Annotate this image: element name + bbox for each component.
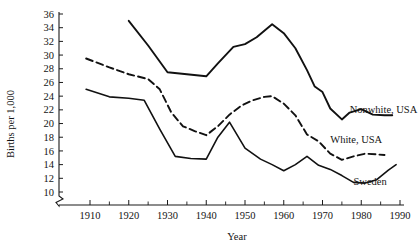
y-tick-label: 26 bbox=[44, 77, 55, 88]
x-axis-group: 191019201930194019501960197019801990 Yea… bbox=[59, 200, 411, 242]
x-axis-title: Year bbox=[227, 231, 247, 242]
data-series-labels: Nonwhite, USAWhite, USASweden bbox=[330, 104, 417, 188]
y-axis-title: Births per 1,000 bbox=[5, 90, 16, 158]
y-axis-group: 1012141618202224262830323436 Births per … bbox=[5, 9, 63, 206]
x-tick-label: 1920 bbox=[118, 210, 139, 221]
x-tick-label: 1980 bbox=[351, 210, 372, 221]
y-axis-tick-labels: 1012141618202224262830323436 bbox=[44, 9, 55, 198]
x-tick-label: 1960 bbox=[273, 210, 294, 221]
data-series-lines bbox=[86, 21, 396, 183]
y-axis-tick-marks bbox=[59, 14, 63, 192]
y-tick-label: 34 bbox=[44, 22, 55, 33]
chart-plot-area: 1012141618202224262830323436 Births per … bbox=[0, 0, 420, 246]
y-tick-label: 24 bbox=[44, 91, 55, 102]
y-tick-label: 20 bbox=[44, 118, 55, 129]
x-tick-label: 1910 bbox=[80, 210, 101, 221]
x-tick-label: 1970 bbox=[312, 210, 333, 221]
y-tick-label: 32 bbox=[44, 36, 55, 47]
y-tick-label: 28 bbox=[44, 63, 55, 74]
x-tick-label: 1940 bbox=[196, 210, 217, 221]
y-tick-label: 22 bbox=[44, 104, 55, 115]
y-tick-label: 14 bbox=[44, 159, 55, 170]
y-tick-label: 18 bbox=[44, 132, 55, 143]
y-tick-label: 10 bbox=[44, 187, 55, 198]
series-label-nonwhite-usa: Nonwhite, USA bbox=[350, 104, 418, 115]
y-tick-label: 12 bbox=[44, 173, 55, 184]
x-tick-label: 1990 bbox=[390, 210, 411, 221]
y-tick-label: 30 bbox=[44, 50, 55, 61]
x-tick-label: 1930 bbox=[157, 210, 178, 221]
series-label-sweden: Sweden bbox=[354, 176, 388, 187]
x-axis-tick-labels: 191019201930194019501960197019801990 bbox=[80, 210, 411, 221]
x-tick-label: 1950 bbox=[235, 210, 256, 221]
x-axis-tick-marks bbox=[90, 200, 400, 205]
y-tick-label: 16 bbox=[44, 146, 55, 157]
series-label-white-usa: White, USA bbox=[330, 134, 382, 145]
birth-rate-line-chart: 1012141618202224262830323436 Births per … bbox=[0, 0, 420, 246]
y-tick-label: 36 bbox=[44, 9, 55, 20]
